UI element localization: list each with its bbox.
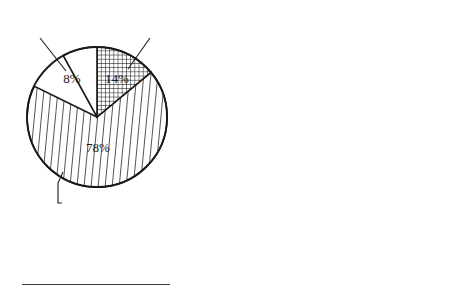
pie-chart-graphic: 8% 14% 78% [0,0,215,294]
pie-chart-panel: 8% 14% 78% [0,0,215,294]
pie-value-sole-proprietorships: 78% [86,140,110,155]
pie-value-corporations: 14% [105,71,129,86]
bar-x-axis-tick-labels [215,228,463,244]
pie-value-partnerships: 8% [63,71,81,86]
bar-chart-graphic [215,0,463,294]
bar-chart-panel [215,0,463,294]
leader-line-partnerships [40,38,66,71]
bottom-divider-rule [22,284,170,285]
figure-container: 8% 14% 78% [0,0,463,294]
